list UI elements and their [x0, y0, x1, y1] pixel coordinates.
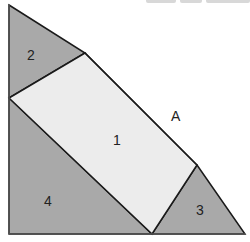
dissection-diagram: 2 1 3 4 A	[0, 0, 250, 242]
label-a: A	[171, 108, 181, 124]
label-3: 3	[196, 202, 204, 218]
label-1: 1	[113, 132, 121, 148]
label-2: 2	[27, 47, 35, 63]
label-4: 4	[44, 193, 52, 209]
